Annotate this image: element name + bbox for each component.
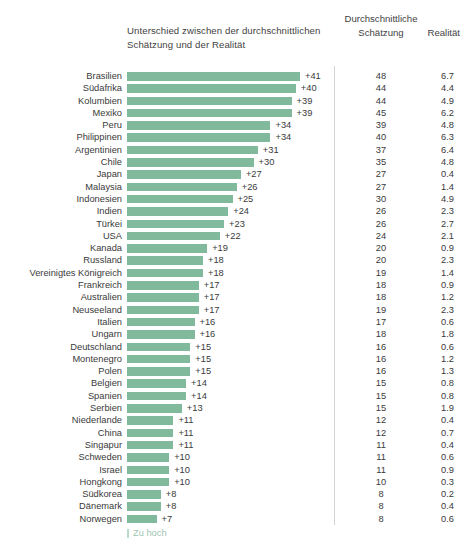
row-bar-container: +27 bbox=[127, 168, 327, 181]
row-bar bbox=[127, 404, 182, 413]
row-bar-container: +41 bbox=[127, 70, 327, 83]
row-reality-value: 0.4 bbox=[398, 168, 454, 181]
row-country-label: Brasilien bbox=[0, 70, 122, 83]
row-reality-value: 1.8 bbox=[398, 328, 454, 341]
row-bar bbox=[127, 84, 296, 93]
row-difference-value: +10 bbox=[174, 476, 190, 489]
row-bar bbox=[127, 195, 233, 204]
table-row: Spanien+14150.8 bbox=[0, 390, 468, 402]
row-difference-value: +18 bbox=[208, 254, 224, 267]
row-reality-value: 1.3 bbox=[398, 365, 454, 378]
chart-header: Unterschied zwischen der durchschnittlic… bbox=[0, 0, 468, 62]
row-reality-value: 4.4 bbox=[398, 82, 454, 95]
row-reality-value: 0.6 bbox=[398, 451, 454, 464]
table-row: Neuseeland+17192.3 bbox=[0, 304, 468, 316]
table-row: Frankreich+17180.9 bbox=[0, 279, 468, 291]
row-difference-value: +17 bbox=[204, 291, 220, 304]
row-reality-value: 1.9 bbox=[398, 402, 454, 415]
row-bar-container: +13 bbox=[127, 402, 327, 415]
row-difference-value: +17 bbox=[204, 279, 220, 292]
row-bar-container: +14 bbox=[127, 390, 327, 403]
table-row: Malaysia+26271.4 bbox=[0, 181, 468, 193]
row-country-label: Malaysia bbox=[0, 181, 122, 194]
row-bar-container: +7 bbox=[127, 513, 327, 526]
row-bar bbox=[127, 392, 186, 401]
row-country-label: Indonesien bbox=[0, 193, 122, 206]
row-bar-container: +23 bbox=[127, 218, 327, 231]
row-difference-value: +14 bbox=[191, 377, 207, 390]
row-difference-value: +14 bbox=[191, 390, 207, 403]
row-bar-container: +17 bbox=[127, 304, 327, 317]
row-country-label: Ungarn bbox=[0, 328, 122, 341]
row-bar-container: +39 bbox=[127, 107, 327, 120]
row-reality-value: 1.4 bbox=[398, 181, 454, 194]
row-difference-value: +26 bbox=[242, 181, 258, 194]
row-difference-value: +15 bbox=[195, 365, 211, 378]
row-bar-container: +10 bbox=[127, 476, 327, 489]
row-country-label: Chile bbox=[0, 156, 122, 169]
row-bar bbox=[127, 502, 161, 511]
row-difference-value: +24 bbox=[233, 205, 249, 218]
row-reality-value: 0.6 bbox=[398, 513, 454, 526]
table-row: Niederlande+11120.4 bbox=[0, 414, 468, 426]
chart-rows: Brasilien+41486.7Südafrika+40444.4Kolumb… bbox=[0, 70, 468, 525]
row-bar bbox=[127, 158, 254, 167]
row-reality-value: 0.9 bbox=[398, 279, 454, 292]
row-difference-value: +39 bbox=[297, 95, 313, 108]
row-bar bbox=[127, 318, 195, 327]
table-row: Indien+24262.3 bbox=[0, 205, 468, 217]
table-row: Dänemark+880.4 bbox=[0, 500, 468, 512]
row-bar bbox=[127, 355, 190, 364]
table-row: Peru+34394.8 bbox=[0, 119, 468, 131]
row-country-label: Vereinigtes Königreich bbox=[0, 267, 122, 280]
row-difference-value: +40 bbox=[301, 82, 317, 95]
row-difference-value: +23 bbox=[229, 218, 245, 231]
row-reality-value: 0.3 bbox=[398, 476, 454, 489]
row-reality-value: 4.9 bbox=[398, 193, 454, 206]
row-reality-value: 2.3 bbox=[398, 205, 454, 218]
row-bar bbox=[127, 133, 270, 142]
table-row: Vereinigtes Königreich+18191.4 bbox=[0, 267, 468, 279]
row-bar bbox=[127, 269, 203, 278]
row-bar-container: +39 bbox=[127, 95, 327, 108]
row-bar-container: +22 bbox=[127, 230, 327, 243]
row-country-label: Singapur bbox=[0, 439, 122, 452]
row-bar bbox=[127, 429, 173, 438]
row-bar-container: +8 bbox=[127, 488, 327, 501]
row-country-label: Polen bbox=[0, 365, 122, 378]
row-bar-container: +11 bbox=[127, 427, 327, 440]
table-row: Ungarn+16181.8 bbox=[0, 328, 468, 340]
row-reality-value: 0.4 bbox=[398, 414, 454, 427]
table-row: China+11120.7 bbox=[0, 427, 468, 439]
table-row: Belgien+14150.8 bbox=[0, 377, 468, 389]
row-country-label: Niederlande bbox=[0, 414, 122, 427]
column-header-estimate-line1: Durchschnittliche bbox=[344, 13, 417, 24]
row-bar-container: +26 bbox=[127, 181, 327, 194]
table-row: Türkei+23262.7 bbox=[0, 218, 468, 230]
row-bar bbox=[127, 207, 228, 216]
table-row: Indonesien+25304.9 bbox=[0, 193, 468, 205]
row-difference-value: +11 bbox=[178, 439, 193, 452]
row-reality-value: 0.6 bbox=[398, 316, 454, 329]
row-bar-container: +16 bbox=[127, 316, 327, 329]
row-difference-value: +10 bbox=[174, 464, 190, 477]
row-country-label: Italien bbox=[0, 316, 122, 329]
row-bar-container: +40 bbox=[127, 82, 327, 95]
row-bar bbox=[127, 97, 292, 106]
table-row: Russland+18202.3 bbox=[0, 254, 468, 266]
table-row: Norwegen+780.6 bbox=[0, 513, 468, 525]
row-bar-container: +8 bbox=[127, 500, 327, 513]
row-bar bbox=[127, 306, 199, 315]
row-bar bbox=[127, 379, 186, 388]
row-difference-value: +11 bbox=[178, 427, 193, 440]
row-country-label: Norwegen bbox=[0, 513, 122, 526]
row-country-label: Philippinen bbox=[0, 131, 122, 144]
legend-label-too-high: Zu hoch bbox=[133, 527, 167, 539]
row-country-label: Neuseeland bbox=[0, 304, 122, 317]
row-bar-container: +16 bbox=[127, 328, 327, 341]
table-row: Italien+16170.6 bbox=[0, 316, 468, 328]
row-bar bbox=[127, 330, 195, 339]
row-difference-value: +27 bbox=[246, 168, 262, 181]
row-reality-value: 0.7 bbox=[398, 427, 454, 440]
row-difference-value: +34 bbox=[275, 119, 291, 132]
